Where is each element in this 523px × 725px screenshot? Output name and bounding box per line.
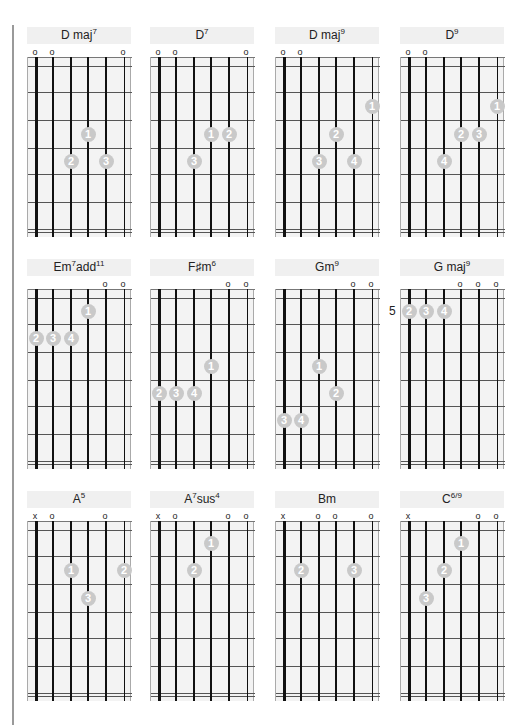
chord-diagram: D7ooo123 (150, 27, 254, 239)
chord-title: Gm9 (275, 259, 379, 276)
chord-diagram: Em7add11oo1234 (27, 259, 131, 471)
fret-line (401, 434, 505, 435)
open-string-icon: o (47, 511, 57, 521)
fret-line (28, 289, 132, 290)
fret-line (28, 612, 132, 613)
finger-dot: 4 (347, 154, 362, 169)
guitar-string (497, 57, 498, 237)
fret-line (401, 202, 505, 203)
open-string-icon: o (241, 511, 251, 521)
guitar-string (300, 57, 303, 237)
chord-diagram: D maj7ooo123 (27, 27, 131, 239)
open-string-icon: o (47, 47, 57, 57)
open-string-icon: o (223, 279, 233, 289)
finger-dot: 1 (64, 563, 79, 578)
chord-name: C (442, 492, 451, 506)
fret-line (28, 324, 132, 325)
fret-line (276, 202, 380, 203)
guitar-string (124, 57, 125, 237)
guitar-string (335, 57, 337, 237)
guitar-string (300, 521, 303, 701)
fret-line (401, 352, 505, 353)
open-string-icon: o (348, 279, 358, 289)
chord-diagram: C6/9xoo123 (400, 491, 504, 703)
guitar-string (497, 289, 498, 469)
chord-title: D7 (150, 27, 254, 44)
open-string-icon: o (223, 511, 233, 521)
finger-dot: 3 (312, 154, 327, 169)
fret-line (151, 461, 255, 462)
finger-dot: 4 (294, 413, 309, 428)
chord-title: D maj9 (275, 27, 379, 44)
chord-superscript-2: 11 (96, 259, 104, 268)
open-string-icon: o (118, 47, 128, 57)
fret-line (28, 92, 132, 93)
finger-dot: 3 (472, 127, 487, 142)
fret-line (151, 229, 255, 230)
fret-line (276, 298, 380, 299)
guitar-string (158, 521, 161, 701)
fret-line (28, 229, 132, 230)
guitar-string (193, 521, 195, 701)
fret-line (276, 406, 380, 407)
fret-line (401, 696, 505, 697)
chord-superscript: 7 (204, 27, 208, 36)
finger-dot: 3 (277, 413, 292, 428)
fretboard: 123 (27, 521, 131, 701)
finger-dot: 1 (365, 99, 380, 114)
fret-line (151, 530, 255, 531)
guitar-string (318, 289, 320, 469)
open-string-icon: o (100, 511, 110, 521)
guitar-string (175, 57, 178, 237)
fret-line (401, 530, 505, 531)
fret-line (28, 461, 132, 462)
open-string-icon: o (491, 511, 501, 521)
chord-name: D maj (309, 28, 340, 42)
string-marks: xoo (27, 511, 131, 521)
chord-name: Gm (315, 260, 334, 274)
fret-line (151, 289, 255, 290)
finger-dot: 3 (81, 591, 96, 606)
chord-superscript: 5 (81, 491, 85, 500)
open-string-icon: o (100, 279, 110, 289)
chord-name: Em (54, 260, 72, 274)
fret-line (151, 232, 255, 233)
muted-string-icon: x (403, 511, 413, 521)
finger-dot: 2 (329, 127, 344, 142)
fret-line (151, 174, 255, 175)
open-string-icon: o (170, 511, 180, 521)
guitar-string (35, 57, 38, 237)
fret-line (401, 324, 505, 325)
chord-diagram: D9oo1234 (400, 27, 504, 239)
finger-dot: 1 (312, 359, 327, 374)
fret-line (401, 556, 505, 557)
string-marks: xooo (275, 511, 379, 521)
fret-line (151, 148, 255, 149)
guitar-string (247, 289, 248, 469)
muted-string-icon: x (30, 511, 40, 521)
guitar-string (425, 57, 428, 237)
guitar-string (105, 289, 107, 469)
fret-line (28, 352, 132, 353)
guitar-string (52, 289, 55, 469)
chord-title: Bm (275, 491, 379, 508)
guitar-string (193, 57, 195, 237)
fret-line (276, 174, 380, 175)
finger-dot: 1 (204, 127, 219, 142)
finger-dot: 2 (329, 386, 344, 401)
fret-line (401, 638, 505, 639)
guitar-string (478, 521, 480, 701)
guitar-string (335, 521, 337, 701)
chord-diagram: A7sus4xooo12 (150, 491, 254, 703)
fret-line (151, 556, 255, 557)
fret-line (401, 148, 505, 149)
fret-line (151, 298, 255, 299)
fret-line (151, 521, 255, 522)
fret-line (276, 352, 380, 353)
fret-line (151, 693, 255, 694)
guitar-string (158, 57, 161, 237)
fret-line (401, 232, 505, 233)
guitar-string (158, 289, 161, 469)
open-string-icon: o (313, 511, 323, 521)
fret-line (276, 324, 380, 325)
